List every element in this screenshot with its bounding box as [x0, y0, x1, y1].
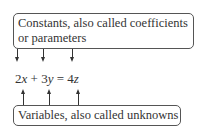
plus-operator: + [27, 71, 41, 86]
arrow-line-variable-z [78, 93, 79, 105]
constants-label-box: Constants, also called coefficients or p… [13, 13, 194, 49]
variable-z: z [74, 71, 79, 86]
arrow-down-icon [70, 57, 74, 62]
arrow-line-variable-x [23, 93, 24, 105]
constants-label-line2: or parameters [18, 31, 193, 46]
constants-label-line1: Constants, also called coefficients [18, 16, 193, 31]
variables-label: Variables, also called unknowns [18, 108, 178, 122]
arrow-down-icon [41, 57, 45, 62]
variables-label-box: Variables, also called unknowns [13, 105, 181, 126]
equals-operator: = [53, 71, 67, 86]
arrow-down-icon [15, 57, 19, 62]
equation: 2x + 3y = 4z [15, 71, 79, 87]
arrow-line-variable-y [49, 93, 50, 105]
